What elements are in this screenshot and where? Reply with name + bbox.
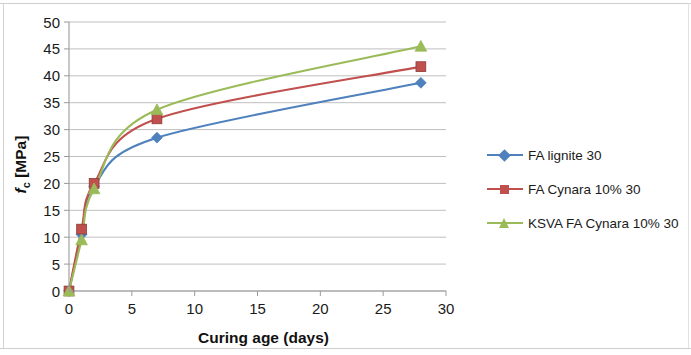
y-tick-label: 5	[52, 256, 60, 273]
data-series-lines	[69, 46, 421, 291]
chart-legend: FA lignite 30 FA Cynara 10% 30 KSVA FA C…	[487, 138, 687, 240]
y-tick-label: 0	[52, 283, 60, 300]
x-tick-label: 0	[65, 300, 73, 317]
line-chart-svg: 05101520253035404550 051015202530 Curing…	[0, 8, 470, 348]
y-axis-title: fc [MPa]	[12, 136, 32, 194]
y-tick-label: 15	[43, 202, 60, 219]
data-point-marker	[151, 104, 163, 115]
legend-label-fa-lignite-30: FA lignite 30	[528, 148, 602, 163]
y-axis-tick-labels: 05101520253035404550	[43, 14, 60, 300]
y-tick-label: 20	[43, 175, 60, 192]
y-tick-label: 10	[43, 229, 60, 246]
plot-area: 05101520253035404550 051015202530 Curing…	[0, 8, 470, 348]
y-tick-label: 40	[43, 67, 60, 84]
data-point-marker	[77, 224, 87, 234]
legend-label-ksva-fa-cynara-10-30: KSVA FA Cynara 10% 30	[528, 216, 679, 231]
gridlines	[69, 22, 446, 291]
data-point-marker	[415, 40, 427, 51]
data-point-marker	[152, 114, 162, 124]
y-tick-label: 50	[43, 14, 60, 31]
legend-item-fa-lignite-30: FA lignite 30	[487, 138, 687, 172]
data-point-marker	[415, 77, 426, 88]
y-tick-label: 35	[43, 94, 60, 111]
legend-marker-triangle	[499, 218, 509, 228]
legend-item-ksva-fa-cynara-10-30: KSVA FA Cynara 10% 30	[487, 206, 687, 240]
x-tick-label: 10	[186, 300, 203, 317]
frame-border-right	[688, 3, 689, 348]
frame-border-top	[0, 3, 691, 4]
x-tick-label: 5	[128, 300, 136, 317]
x-tick-label: 30	[438, 300, 455, 317]
series-line-2	[69, 46, 421, 291]
data-series-markers	[63, 40, 426, 296]
x-tick-label: 15	[249, 300, 266, 317]
data-point-marker	[416, 62, 426, 72]
data-point-marker	[152, 132, 163, 143]
y-tick-label: 45	[43, 40, 60, 57]
x-tick-label: 20	[312, 300, 329, 317]
x-axis-ticks	[69, 291, 446, 296]
legend-item-fa-cynara-10-30: FA Cynara 10% 30	[487, 172, 687, 206]
chart-figure: 05101520253035404550 051015202530 Curing…	[0, 0, 691, 355]
svg-text:fc [MPa]: fc [MPa]	[12, 136, 32, 194]
series-line-0	[69, 83, 421, 291]
y-tick-label: 25	[43, 148, 60, 165]
frame-border-bottom	[0, 348, 691, 349]
x-axis-tick-labels: 051015202530	[65, 300, 455, 317]
series-line-1	[69, 67, 421, 291]
legend-key-red-square	[487, 182, 523, 196]
x-tick-label: 25	[375, 300, 392, 317]
legend-label-fa-cynara-10-30: FA Cynara 10% 30	[528, 182, 641, 197]
x-axis-title: Curing age (days)	[198, 329, 329, 346]
legend-key-blue-diamond	[487, 148, 523, 162]
y-axis-ticks	[64, 22, 69, 291]
y-tick-label: 30	[43, 121, 60, 138]
legend-key-green-triangle	[487, 216, 523, 230]
